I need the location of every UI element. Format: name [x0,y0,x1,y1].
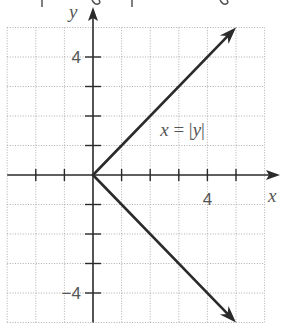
equation-label: x = |y| [159,119,205,140]
y-tick-label-neg4: −4 [62,284,81,303]
y-axis-label: y [67,1,78,22]
upper-ray-line [93,35,229,175]
equation-close-bar: | [201,119,205,140]
equation-var-y: y [191,119,202,140]
y-tick-label-4: 4 [72,48,81,67]
x-tick-label-4: 4 [203,190,212,209]
equation-equals: = | [169,119,193,140]
axes [7,7,280,323]
x-axis-label: x [267,185,277,206]
graph-x-equals-abs-y: x y 4 4 −4 x = |y| [0,0,281,327]
